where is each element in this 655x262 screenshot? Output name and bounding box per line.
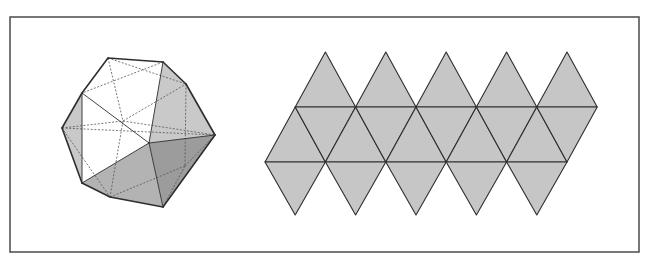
icosahedron-3d-view [62,58,215,207]
icosahedron-net [265,52,597,215]
net-triangle [386,162,446,215]
net-triangle [476,52,536,107]
net-triangle [356,52,416,107]
net-triangle [537,52,597,107]
icosahedron-figure [0,0,655,262]
net-triangle [295,52,355,107]
net-triangle [416,52,476,107]
net-triangle [265,162,325,215]
diagram-canvas [0,0,655,262]
net-triangle [507,162,567,215]
net-triangle [325,162,385,215]
net-triangle [446,162,506,215]
